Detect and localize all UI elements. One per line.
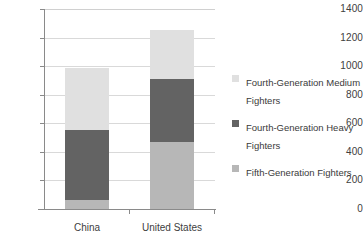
x-axis-tick xyxy=(129,209,130,214)
bar-segment-fourth-gen-medium[interactable] xyxy=(150,30,194,79)
legend-item-fourth-gen-heavy[interactable]: Fourth-Generation Heavy Fighters xyxy=(232,117,363,153)
legend-item-fourth-gen-medium[interactable]: Fourth-Generation Medium Fighters xyxy=(232,72,363,108)
y-axis-tick-label: 1400 xyxy=(329,4,363,14)
x-axis-line xyxy=(38,209,216,210)
legend-item-label: Fourth-Generation Medium Fighters xyxy=(246,77,360,106)
y-axis-line xyxy=(44,9,45,210)
bar-segment-fourth-gen-heavy[interactable] xyxy=(65,130,109,200)
legend-item-label: Fourth-Generation Heavy Fighters xyxy=(246,122,353,151)
plot-area: China United States xyxy=(45,9,215,209)
legend-item-label: Fifth-Generation Fighters xyxy=(246,167,352,178)
bar-segment-fourth-gen-heavy[interactable] xyxy=(150,79,194,142)
x-axis-tick xyxy=(214,209,215,214)
y-axis-tick-label: 1000 xyxy=(329,61,363,71)
legend-swatch-icon xyxy=(232,75,239,82)
bar-segment-fourth-gen-medium[interactable] xyxy=(65,68,109,131)
legend-swatch-icon xyxy=(232,165,239,172)
legend-item-fifth-gen[interactable]: Fifth-Generation Fighters xyxy=(232,162,363,180)
legend: Fourth-Generation Medium Fighters Fourth… xyxy=(232,72,363,189)
stacked-bar-chart: 1400 1200 1000 800 600 400 200 0 xyxy=(0,0,363,240)
bar-segment-fifth-gen[interactable] xyxy=(65,200,109,209)
gridline-1400 xyxy=(45,9,215,10)
x-axis-label-china: China xyxy=(45,222,129,234)
y-axis-tick-label: 0 xyxy=(329,204,363,214)
bar-segment-fifth-gen[interactable] xyxy=(150,142,194,209)
y-axis-tick-label: 1200 xyxy=(329,33,363,43)
legend-swatch-icon xyxy=(232,120,239,127)
x-axis-label-united-states: United States xyxy=(130,222,214,234)
